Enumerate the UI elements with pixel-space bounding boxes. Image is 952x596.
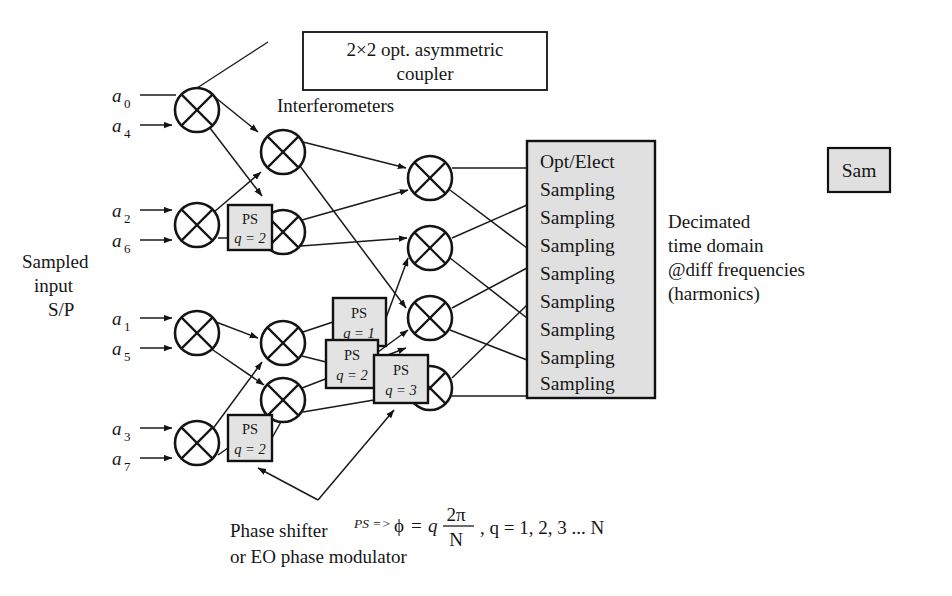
sampling-line-1: Sampling (540, 179, 615, 200)
phase-shifter-caption-line2: or EO phase modulator (230, 546, 407, 567)
input-label-a1: a 1 (112, 308, 131, 334)
formula-equals: = (411, 515, 422, 536)
ps-box-stage2-upper[interactable]: PS q = 1 (333, 298, 386, 346)
coupler-column-1 (175, 88, 219, 465)
stage3-to-sampling-wires (450, 168, 527, 396)
input-base: a (112, 418, 122, 439)
input-label-a5: a 5 (112, 338, 131, 364)
phase-formula: PS => ϕ = q 2π N , q = 1, 2, 3 ... N (353, 504, 604, 550)
ps-q-label: q = 2 (336, 367, 368, 383)
diagram-svg: PS q = 2 PS q = 1 PS q = 2 PS q = 3 PS (0, 0, 952, 596)
sampling-line-3: Sampling (540, 235, 615, 256)
coupler-c2a[interactable] (261, 130, 305, 174)
sampled-input-line3: S/P (48, 299, 74, 320)
ps-label: PS (344, 347, 360, 363)
formula-phi: ϕ (394, 515, 404, 536)
sampling-line-4: Sampling (540, 263, 615, 284)
coupler-caption-line1: 2×2 opt. asymmetric (347, 39, 504, 60)
coupler-c4[interactable] (175, 421, 219, 465)
coupler-caption-box: 2×2 opt. asymmetric coupler (303, 32, 547, 90)
coupler-out-1[interactable] (408, 156, 452, 200)
input-base: a (112, 115, 122, 136)
ps-label: PS (351, 305, 367, 321)
input-label-a4: a 4 (112, 115, 131, 141)
formula-prefix: PS => (353, 516, 391, 531)
formula-tail: , q = 1, 2, 3 ... N (480, 517, 604, 538)
input-labels: a 0 a 4 a 2 a 6 a 1 a 5 (112, 85, 131, 474)
ps-label: PS (242, 211, 258, 227)
ps-box-stage2-mid[interactable]: PS q = 2 (326, 340, 378, 388)
interferometers-label: Interferometers (277, 95, 394, 116)
input-label-a7: a 7 (112, 448, 131, 474)
input-base: a (112, 200, 122, 221)
decimated-line2: time domain (668, 235, 764, 256)
sam-fragment-box: Sam (828, 148, 890, 192)
input-base: a (112, 230, 122, 251)
sampling-line-8: Sampling (540, 373, 615, 394)
sampling-box: Opt/Elect Sampling Sampling Sampling Sam… (527, 141, 655, 398)
sampling-line-7: Sampling (540, 347, 615, 368)
input-label-a3: a 3 (112, 418, 131, 444)
ps-label: PS (242, 421, 258, 437)
coupler-c2[interactable] (175, 203, 219, 247)
ps-box-stage1-bottom[interactable]: PS q = 2 (228, 415, 272, 461)
input-base: a (112, 85, 122, 106)
decimated-line1: Decimated (668, 211, 751, 232)
input-base: a (112, 308, 122, 329)
sampled-input-line2: input (34, 275, 74, 296)
sampling-line-5: Sampling (540, 291, 615, 312)
input-sub: 2 (124, 211, 131, 226)
sam-box-label: Sam (842, 160, 877, 181)
input-wires (140, 95, 176, 458)
input-sub: 0 (124, 96, 131, 111)
input-sub: 1 (124, 319, 131, 334)
ps-q-label: q = 1 (343, 325, 375, 341)
coupler-caption-line2: coupler (397, 63, 455, 84)
figure-canvas: PS q = 2 PS q = 1 PS q = 2 PS q = 3 PS (0, 0, 952, 596)
ps-box-stage1-lower[interactable]: PS q = 2 (228, 205, 272, 250)
sampling-line-2: Sampling (540, 207, 615, 228)
coupler-out-2[interactable] (408, 226, 452, 270)
ps-q-label: q = 2 (234, 230, 266, 246)
decimated-line3: @diff frequencies (668, 259, 805, 280)
decimated-line4: (harmonics) (668, 283, 760, 305)
input-label-a2: a 2 (112, 200, 131, 226)
sampling-line-0: Opt/Elect (540, 151, 615, 172)
ps-q-label: q = 2 (234, 441, 266, 457)
coupler-c3[interactable] (175, 311, 219, 355)
input-sub: 7 (124, 459, 131, 474)
input-sub: 3 (124, 429, 131, 444)
input-label-a0: a 0 (112, 85, 131, 111)
formula-denominator: N (449, 529, 463, 550)
phase-shifter-pointer-lines (258, 410, 394, 500)
formula-numerator: 2π (446, 504, 466, 525)
coupler-column-2 (261, 130, 305, 422)
ps-q-label: q = 3 (385, 382, 417, 398)
coupler-c1[interactable] (175, 88, 219, 132)
phase-shifter-caption-line1: Phase shifter (230, 520, 328, 541)
coupler-c3a[interactable] (261, 321, 305, 365)
sampling-line-6: Sampling (540, 319, 615, 340)
coupler-out-3[interactable] (408, 296, 452, 340)
sampled-input-line1: Sampled (22, 251, 89, 272)
input-sub: 4 (124, 126, 131, 141)
input-label-a6: a 6 (112, 230, 131, 256)
ps-label: PS (393, 362, 409, 378)
input-base: a (112, 448, 122, 469)
ps-box-stage2-lower[interactable]: PS q = 3 (374, 355, 428, 403)
input-sub: 5 (124, 349, 131, 364)
formula-q: q (428, 515, 438, 536)
input-sub: 6 (124, 241, 131, 256)
input-base: a (112, 338, 122, 359)
